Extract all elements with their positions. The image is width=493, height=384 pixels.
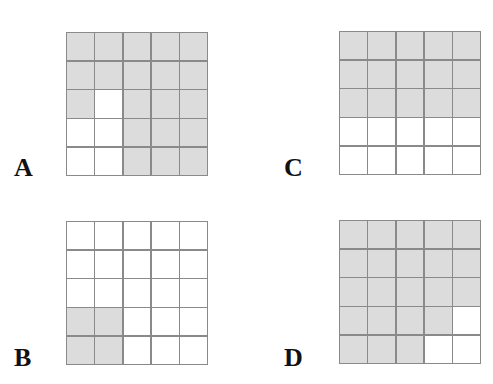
grid-cell-filled: [340, 336, 367, 363]
grid-cell-filled: [180, 33, 207, 60]
grid-cell-empty: [95, 279, 122, 306]
grid-cell-empty: [124, 222, 151, 249]
grid-cell-filled: [67, 33, 94, 60]
grid-cell-filled: [124, 90, 151, 117]
grid-cell-filled: [397, 61, 424, 88]
grid-cell-empty: [425, 118, 452, 145]
grid-cell-filled: [397, 307, 424, 334]
grid-cell-empty: [67, 251, 94, 278]
grid-cell-empty: [124, 337, 151, 364]
grid-cell-filled: [453, 221, 480, 248]
grid-cell-filled: [95, 62, 122, 89]
grid-cell-filled: [180, 119, 207, 146]
grid-cell-empty: [397, 118, 424, 145]
grid-cell-empty: [152, 251, 179, 278]
grid-cell-filled: [368, 89, 395, 116]
grid-cell-empty: [95, 251, 122, 278]
grid-cell-filled: [425, 278, 452, 305]
grid-cell-filled: [368, 307, 395, 334]
grid-cell-empty: [180, 279, 207, 306]
grid-cell-empty: [180, 251, 207, 278]
grid-cell-filled: [152, 90, 179, 117]
grid-cell-filled: [124, 148, 151, 175]
grid-cell-empty: [340, 118, 367, 145]
grid-cell-filled: [397, 221, 424, 248]
grid-cell-empty: [95, 119, 122, 146]
grid-cell-empty: [67, 148, 94, 175]
grid-cell-filled: [95, 308, 122, 335]
grid-cell-filled: [180, 90, 207, 117]
grid-cell-filled: [397, 336, 424, 363]
grid-cell-empty: [425, 336, 452, 363]
grid-b: [66, 221, 208, 365]
grid-cell-filled: [453, 61, 480, 88]
grid-cell-empty: [180, 337, 207, 364]
grid-cell-empty: [425, 147, 452, 174]
grid-cell-empty: [67, 222, 94, 249]
grid-cell-filled: [368, 336, 395, 363]
grid-c: [339, 31, 481, 175]
grid-cell-filled: [368, 61, 395, 88]
grid-cell-filled: [340, 32, 367, 59]
grid-d: [339, 220, 481, 364]
grid-cell-filled: [397, 32, 424, 59]
grid-cell-empty: [67, 119, 94, 146]
grid-cell-filled: [67, 90, 94, 117]
grid-cell-empty: [453, 118, 480, 145]
grid-cell-filled: [368, 221, 395, 248]
grid-cell-filled: [152, 119, 179, 146]
grid-cell-empty: [453, 307, 480, 334]
grid-cell-empty: [152, 308, 179, 335]
grid-cell-filled: [67, 62, 94, 89]
grid-cell-empty: [368, 147, 395, 174]
grid-cell-empty: [67, 279, 94, 306]
grid-cell-filled: [124, 33, 151, 60]
panel-label-b: B: [14, 345, 31, 371]
grid-cell-filled: [425, 32, 452, 59]
grid-cell-filled: [340, 278, 367, 305]
grid-cell-empty: [124, 279, 151, 306]
grid-cell-filled: [95, 337, 122, 364]
grid-cell-empty: [453, 336, 480, 363]
grid-cell-empty: [95, 90, 122, 117]
grid-cell-filled: [425, 61, 452, 88]
grid-cell-filled: [368, 250, 395, 277]
grid-cell-filled: [397, 250, 424, 277]
grid-cell-empty: [95, 222, 122, 249]
grid-cell-empty: [95, 148, 122, 175]
grid-cell-filled: [425, 307, 452, 334]
grid-cell-filled: [180, 62, 207, 89]
grid-cell-filled: [340, 61, 367, 88]
grid-cell-filled: [397, 89, 424, 116]
grid-cell-filled: [180, 148, 207, 175]
grid-cell-empty: [453, 147, 480, 174]
grid-cell-filled: [368, 278, 395, 305]
grid-cell-empty: [397, 147, 424, 174]
grid-cell-filled: [152, 62, 179, 89]
grid-cell-filled: [453, 278, 480, 305]
grid-cell-filled: [67, 337, 94, 364]
grid-cell-filled: [124, 62, 151, 89]
grid-cell-empty: [124, 251, 151, 278]
grid-cell-empty: [152, 337, 179, 364]
grid-cell-filled: [368, 32, 395, 59]
grid-cell-filled: [425, 221, 452, 248]
grid-cell-filled: [95, 33, 122, 60]
grid-cell-empty: [152, 222, 179, 249]
grid-cell-empty: [180, 222, 207, 249]
grid-cell-filled: [152, 33, 179, 60]
grid-cell-empty: [368, 118, 395, 145]
grid-cell-filled: [425, 250, 452, 277]
grid-cell-empty: [180, 308, 207, 335]
grid-cell-filled: [397, 278, 424, 305]
panel-label-c: C: [284, 155, 303, 181]
grid-cell-filled: [152, 148, 179, 175]
grid-cell-filled: [340, 250, 367, 277]
grid-a: [66, 32, 208, 176]
grid-cell-filled: [340, 221, 367, 248]
grid-cell-empty: [124, 308, 151, 335]
grid-cell-filled: [124, 119, 151, 146]
grid-cell-filled: [425, 89, 452, 116]
grid-cell-filled: [453, 89, 480, 116]
grid-cell-filled: [340, 307, 367, 334]
